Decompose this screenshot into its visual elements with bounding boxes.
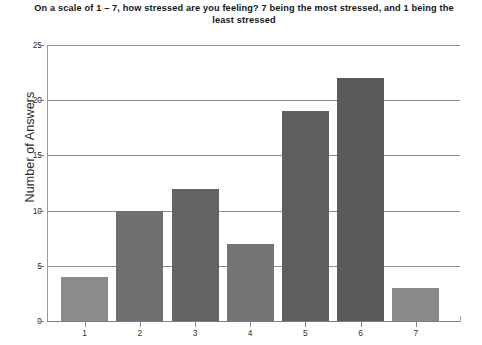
y-axis-tick-mark bbox=[39, 155, 44, 156]
y-axis-tick-mark bbox=[39, 211, 44, 212]
x-axis-tick-labels: 1234567 bbox=[47, 322, 461, 342]
bar bbox=[61, 277, 108, 321]
x-axis-tick-mark bbox=[361, 322, 362, 327]
x-axis-tick-mark bbox=[140, 322, 141, 327]
y-axis-tick-mark bbox=[39, 266, 44, 267]
plot-area bbox=[47, 45, 460, 321]
bar bbox=[392, 288, 439, 321]
x-axis-tick-mark bbox=[250, 322, 251, 327]
x-axis-tick-label: 4 bbox=[238, 328, 262, 338]
x-axis-tick-mark bbox=[195, 322, 196, 327]
gridline bbox=[47, 100, 460, 101]
x-axis-tick-label: 6 bbox=[349, 328, 373, 338]
y-axis-tick-mark bbox=[39, 321, 44, 322]
gridline bbox=[47, 155, 460, 156]
x-axis-tick-label: 7 bbox=[404, 328, 428, 338]
gridline bbox=[47, 211, 460, 212]
y-axis-tick-mark bbox=[39, 45, 44, 46]
bar bbox=[282, 111, 329, 321]
chart-title: On a scale of 1 – 7, how stressed are yo… bbox=[28, 2, 460, 27]
bar bbox=[116, 211, 163, 321]
x-axis-tick-mark bbox=[305, 322, 306, 327]
y-axis-spine bbox=[47, 45, 48, 322]
bar bbox=[337, 78, 384, 321]
x-axis-tick-label: 2 bbox=[128, 328, 152, 338]
y-axis-tick-mark bbox=[39, 100, 44, 101]
bar bbox=[227, 244, 274, 321]
bar bbox=[172, 189, 219, 321]
x-axis-tick-mark bbox=[85, 322, 86, 327]
gridline bbox=[47, 45, 460, 46]
x-axis-tick-label: 5 bbox=[293, 328, 317, 338]
y-axis-tick-marks bbox=[0, 45, 47, 322]
x-axis-tick-label: 3 bbox=[183, 328, 207, 338]
x-axis-tick-mark bbox=[416, 322, 417, 327]
bar-chart-figure: On a scale of 1 – 7, how stressed are yo… bbox=[0, 0, 482, 345]
x-axis-tick-label: 1 bbox=[73, 328, 97, 338]
